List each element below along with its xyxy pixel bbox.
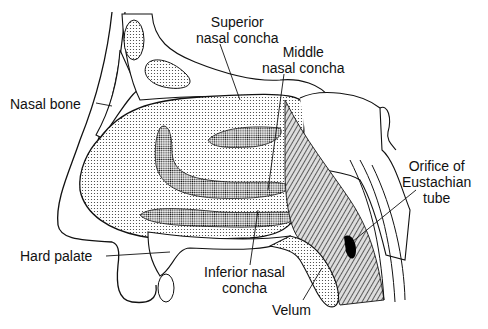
label-inferior-nasal-concha: Inferior nasal concha [204,264,285,296]
label-superior-nasal-concha: Superior nasal concha [196,14,279,46]
label-nasal-bone: Nasal bone [10,96,81,112]
label-middle-nasal-concha: Middle nasal concha [262,44,345,76]
label-orifice-eustachian-tube: Orifice of Eustachian tube [402,158,471,206]
label-velum: Velum [272,302,311,318]
label-hard-palate: Hard palate [20,248,92,264]
